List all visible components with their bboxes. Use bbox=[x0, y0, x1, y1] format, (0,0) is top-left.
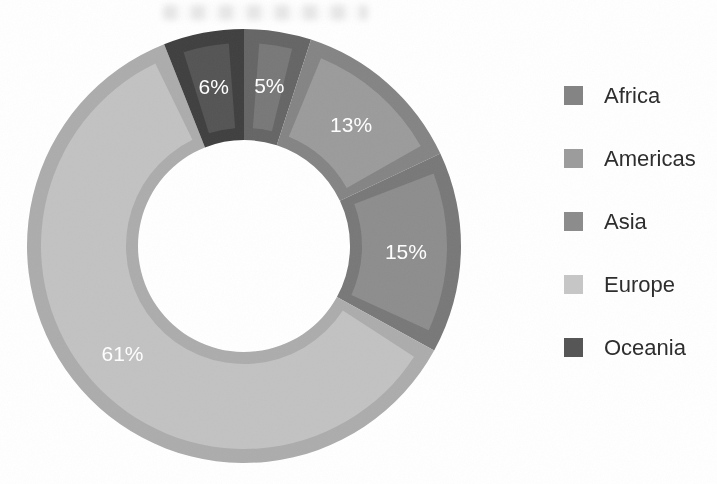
legend-item-europe: Europe bbox=[564, 275, 696, 294]
legend-swatch-africa bbox=[564, 86, 583, 105]
chart-legend: Africa Americas Asia Europe Oceania bbox=[564, 86, 696, 401]
legend-label-oceania: Oceania bbox=[604, 338, 686, 357]
legend-item-americas: Americas bbox=[564, 149, 696, 168]
legend-label-europe: Europe bbox=[604, 275, 675, 294]
legend-swatch-asia bbox=[564, 212, 583, 231]
legend-label-asia: Asia bbox=[604, 212, 647, 231]
scanned-chart-page: 5%13%15%61%6% Africa Americas Asia Europ… bbox=[0, 0, 717, 484]
legend-label-africa: Africa bbox=[604, 86, 660, 105]
legend-item-oceania: Oceania bbox=[564, 338, 696, 357]
legend-item-asia: Asia bbox=[564, 212, 696, 231]
legend-swatch-americas bbox=[564, 149, 583, 168]
legend-swatch-oceania bbox=[564, 338, 583, 357]
legend-swatch-europe bbox=[564, 275, 583, 294]
legend-item-africa: Africa bbox=[564, 86, 696, 105]
legend-label-americas: Americas bbox=[604, 149, 696, 168]
